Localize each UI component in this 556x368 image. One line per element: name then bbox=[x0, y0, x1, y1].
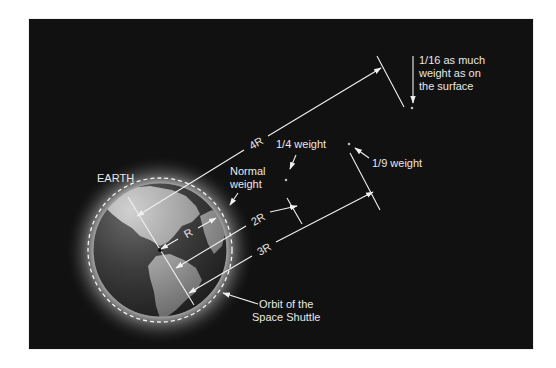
gravity-distance-diagram: R 2R 3R 4R EARTH Normal weight 1/4 weigh… bbox=[0, 0, 556, 368]
sixteenth-weight-label-line2: weight as on bbox=[418, 67, 481, 79]
label-3r: 3R bbox=[255, 240, 273, 258]
sixteenth-weight-dot bbox=[411, 107, 414, 110]
quarter-weight-label: 1/4 weight bbox=[276, 138, 326, 150]
orbit-label-line1: Orbit of the bbox=[259, 298, 313, 310]
quarter-weight-arrow bbox=[290, 155, 296, 169]
earth-label: EARTH bbox=[97, 172, 134, 184]
orbit-label-line2: Space Shuttle bbox=[252, 311, 321, 323]
normal-weight-label-line2: weight bbox=[229, 178, 262, 190]
label-4r: 4R bbox=[247, 134, 265, 152]
sixteenth-weight-label-line1: 1/16 as much bbox=[419, 54, 485, 66]
ninth-weight-dot bbox=[348, 143, 351, 146]
ninth-weight-label: 1/9 weight bbox=[372, 157, 422, 169]
quarter-weight-dot bbox=[285, 179, 288, 182]
sixteenth-weight-label-line3: the surface bbox=[419, 80, 473, 92]
ninth-weight-arrow bbox=[355, 148, 369, 158]
normal-weight-label-line1: Normal bbox=[230, 165, 265, 177]
